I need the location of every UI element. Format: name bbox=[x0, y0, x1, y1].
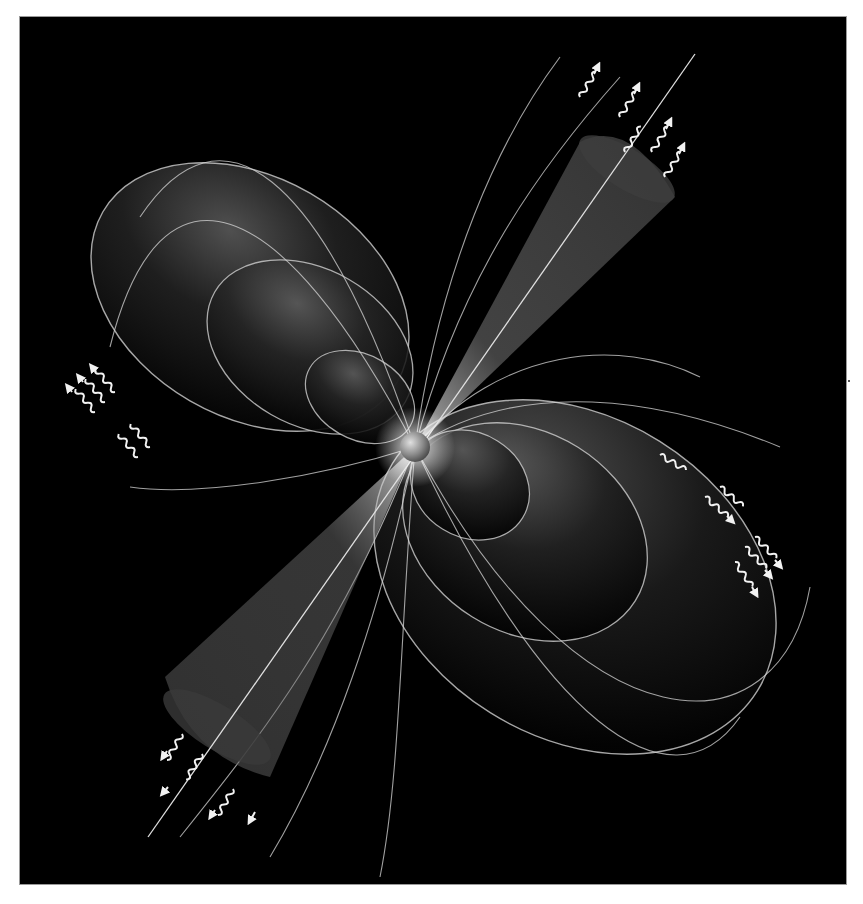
arrow-head-icon bbox=[775, 560, 780, 566]
arrow-head-icon bbox=[68, 387, 72, 392]
wave-arrow-icon bbox=[184, 753, 204, 781]
wave-arrow-icon bbox=[117, 432, 140, 458]
edge-speck bbox=[848, 380, 850, 382]
left-radiation-arrows bbox=[68, 367, 152, 459]
pulsar-svg bbox=[20, 17, 846, 884]
wave-arrow-icon bbox=[129, 422, 152, 448]
wave-arrow-icon bbox=[663, 150, 683, 178]
arrow-head-icon bbox=[163, 751, 167, 757]
arrow-head-icon bbox=[250, 812, 255, 821]
arrow-head-icon bbox=[679, 146, 683, 154]
neutron-star bbox=[400, 432, 430, 462]
pulsar-illustration: Pulsar illustration bbox=[20, 17, 846, 884]
wave-arrow-icon bbox=[165, 733, 184, 761]
arrow-head-icon bbox=[163, 787, 168, 793]
wave-arrow-icon bbox=[618, 90, 638, 118]
arrow-head-icon bbox=[594, 66, 598, 74]
wave-arrow-icon bbox=[650, 125, 670, 153]
arrow-head-icon bbox=[666, 121, 670, 129]
wave-arrow-icon bbox=[216, 788, 235, 816]
wave-arrow-icon bbox=[578, 70, 598, 98]
wave-arrow-icon bbox=[94, 367, 117, 393]
arrow-head-icon bbox=[211, 810, 215, 816]
arrow-head-icon bbox=[634, 86, 638, 94]
arrow-head-icon bbox=[79, 377, 83, 382]
